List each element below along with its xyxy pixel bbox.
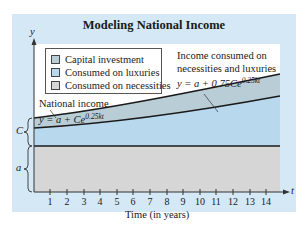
legend-item-necessities: Consumed on necessities xyxy=(51,79,161,92)
brace-a-label: a xyxy=(16,162,21,173)
brace-C-icon xyxy=(24,118,32,146)
consumption-annotation: Income consumed on necessities and luxur… xyxy=(177,50,276,91)
necessities-region xyxy=(34,146,280,192)
legend-item-capital-investment: Capital investment xyxy=(51,53,161,66)
swatch-necessities xyxy=(51,81,60,90)
x-axis-letter: t xyxy=(291,185,294,196)
swatch-capital-investment xyxy=(51,55,60,64)
x-axis-arrow-icon xyxy=(283,190,290,195)
brace-a-icon xyxy=(24,146,32,192)
chart-figure: Modeling National Income y t C a Capital… xyxy=(12,14,296,212)
legend: Capital investment Consumed on luxuries … xyxy=(45,48,162,94)
legend-item-luxuries: Consumed on luxuries xyxy=(51,66,161,79)
y-axis-arrow-icon xyxy=(32,38,37,45)
y-axis-label: y xyxy=(30,26,35,37)
national-income-annotation: National income y = a + Ce0.25kt xyxy=(39,98,109,126)
chart-title: Modeling National Income xyxy=(12,18,296,33)
x-axis-title: Time (in years) xyxy=(125,209,189,220)
swatch-luxuries xyxy=(51,68,60,77)
brace-C-label: C xyxy=(16,125,23,136)
